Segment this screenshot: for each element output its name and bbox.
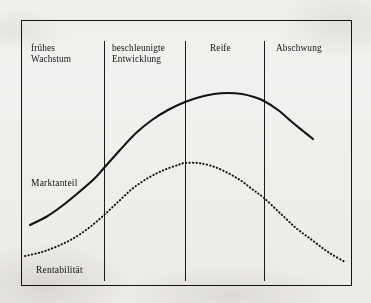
stage-divider-1 xyxy=(104,41,105,281)
product-lifecycle-figure: frühes Wachstum beschleunigte Entwicklun… xyxy=(0,0,371,303)
curve-label-rentabilitaet: Rentabilität xyxy=(36,265,83,276)
stage-label-fruehes-wachstum: frühes Wachstum xyxy=(31,43,71,66)
stage-label-reife: Reife xyxy=(210,43,231,54)
stage-divider-2 xyxy=(185,41,186,281)
stage-divider-3 xyxy=(264,41,265,281)
stage-label-beschleunigte-entwicklung: beschleunigte Entwicklung xyxy=(112,43,165,66)
stage-label-abschwung: Abschwung xyxy=(276,43,322,54)
curve-label-marktanteil: Marktanteil xyxy=(31,178,78,189)
